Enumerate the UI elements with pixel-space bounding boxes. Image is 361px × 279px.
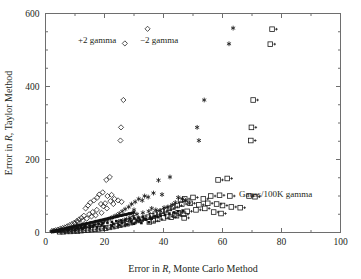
marker-asterisk xyxy=(197,138,201,143)
marker-dot xyxy=(124,218,127,221)
marker-asterisk xyxy=(202,98,206,103)
y-tick-label: 200 xyxy=(25,155,40,165)
marker-dot xyxy=(168,212,171,215)
marker-diamond xyxy=(83,206,88,211)
marker-asterisk xyxy=(137,197,141,202)
marker-dot xyxy=(140,222,143,225)
annotation-label: −2 gamma xyxy=(140,35,178,45)
marker-dot xyxy=(112,222,115,225)
marker-asterisk xyxy=(195,125,199,130)
marker-diamond xyxy=(85,203,90,208)
marker-diamond xyxy=(118,138,123,143)
tick-labels: 0204060801000200400600 xyxy=(25,9,348,247)
marker-asterisk xyxy=(133,199,137,204)
marker-asterisk xyxy=(141,210,145,215)
marker-square-plus xyxy=(249,125,257,130)
marker-dot xyxy=(147,221,150,224)
marker-square-plus xyxy=(249,138,257,143)
marker-diamond xyxy=(99,210,104,215)
marker-dot xyxy=(97,223,100,226)
marker-dot xyxy=(115,220,118,223)
x-tick-label: 40 xyxy=(159,237,169,247)
marker-dot xyxy=(55,230,58,233)
series-2 xyxy=(57,27,277,234)
marker-dot xyxy=(52,230,55,233)
marker-dot xyxy=(164,214,167,217)
marker-square-plus xyxy=(229,205,237,210)
marker-asterisk xyxy=(227,41,231,46)
marker-square-plus xyxy=(228,194,236,199)
marker-dot xyxy=(103,225,106,228)
marker-diamond xyxy=(121,97,126,102)
marker-dot xyxy=(77,227,80,230)
marker-square-plus xyxy=(270,27,278,32)
marker-diamond xyxy=(118,125,123,130)
marker-square-plus xyxy=(205,201,213,206)
marker-dot xyxy=(91,225,94,228)
marker-dot xyxy=(181,209,184,212)
y-axis-label: Error in R, Taylor Method xyxy=(3,71,14,175)
marker-dot xyxy=(159,214,162,217)
marker-square-plus xyxy=(214,202,222,207)
marker-asterisk xyxy=(168,175,172,180)
series-1 xyxy=(55,26,235,234)
marker-dot xyxy=(149,216,152,219)
marker-asterisk xyxy=(231,26,235,31)
marker-dot xyxy=(106,221,109,224)
marker-square-plus xyxy=(217,193,225,198)
y-tick-label: 400 xyxy=(25,82,40,92)
marker-diamond xyxy=(122,41,127,46)
marker-dot xyxy=(133,222,136,225)
marker-dot xyxy=(177,210,180,213)
marker-square-plus xyxy=(175,203,183,208)
marker-square-plus xyxy=(194,208,202,213)
marker-square-plus xyxy=(203,206,211,211)
marker-asterisk xyxy=(156,178,160,183)
x-tick-label: 80 xyxy=(277,237,287,247)
marker-asterisk xyxy=(160,192,164,197)
x-tick-label: 0 xyxy=(43,237,48,247)
marker-square-plus xyxy=(225,176,233,181)
annotation-label: Gauss/100K gamma xyxy=(239,189,312,199)
annotations: +2 gamma−2 gammaGauss/100K gamma xyxy=(78,35,312,199)
y-tick-label: 600 xyxy=(25,9,40,19)
marker-dot xyxy=(100,224,103,227)
marker-square-plus xyxy=(201,197,209,202)
marker-dot xyxy=(133,217,136,220)
marker-dot xyxy=(125,223,128,226)
marker-dot xyxy=(121,221,124,224)
chart-figure: 0204060801000200400600Error in R, Monte … xyxy=(0,0,361,279)
marker-dot xyxy=(136,219,139,222)
marker-dot xyxy=(60,229,63,232)
marker-dot xyxy=(96,226,99,229)
marker-square-plus xyxy=(219,211,227,216)
x-tick-label: 20 xyxy=(100,237,110,247)
marker-dot xyxy=(88,227,91,230)
x-axis-label: Error in R, Monte Carlo Method xyxy=(128,263,257,274)
marker-dot xyxy=(133,211,136,214)
marker-dot xyxy=(153,215,156,218)
marker-asterisk xyxy=(135,212,139,217)
marker-asterisk xyxy=(151,191,155,196)
marker-dot xyxy=(71,227,74,230)
marker-square-plus xyxy=(211,210,219,215)
marker-dot xyxy=(68,228,71,231)
y-tick-label: 0 xyxy=(35,228,40,238)
marker-dot xyxy=(173,211,176,214)
marker-dot xyxy=(143,217,146,220)
marker-diamond xyxy=(145,26,150,31)
x-tick-label: 100 xyxy=(333,237,348,247)
annotation-label: +2 gamma xyxy=(78,35,116,45)
marker-square-plus xyxy=(268,42,276,47)
marker-dot xyxy=(130,220,133,223)
marker-square-plus xyxy=(238,205,246,210)
marker-dot xyxy=(83,226,86,229)
marker-dot xyxy=(118,224,121,227)
marker-dot xyxy=(156,216,159,219)
marker-dot xyxy=(128,218,131,221)
marker-dot xyxy=(74,228,77,231)
marker-square-plus xyxy=(191,195,199,200)
marker-dot xyxy=(139,218,142,221)
marker-square-plus xyxy=(216,178,224,183)
scatter-plot: 0204060801000200400600Error in R, Monte … xyxy=(0,0,361,279)
